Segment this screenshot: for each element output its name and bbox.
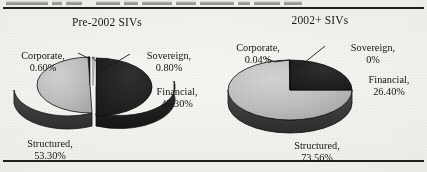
pie-label-corporate-pre2002: Corporate, 0.60%: [6, 50, 80, 73]
pie-label-sovereign-value-pre2002: 0.80%: [131, 62, 207, 74]
pie-label-sovereign-post2002: Sovereign, 0%: [335, 42, 411, 65]
pie-label-financial-pre2002: Financial, 45.30%: [140, 86, 214, 109]
pie-label-structured-name-pre2002: Structured,: [4, 138, 96, 150]
pie-label-financial-name-post2002: Financial,: [353, 74, 425, 86]
pie-label-structured-pre2002: Structured, 53.30%: [4, 138, 96, 161]
pie-label-financial-post2002: Financial, 26.40%: [353, 74, 425, 97]
figure-root: Pre-2002 SIVs: [0, 0, 427, 172]
pie-label-corporate-name-pre2002: Corporate,: [6, 50, 80, 62]
chart-panel-pre2002: Pre-2002 SIVs: [0, 10, 214, 158]
pie-label-sovereign-pre2002: Sovereign, 0.80%: [131, 50, 207, 73]
pie-label-financial-value-pre2002: 45.30%: [140, 98, 214, 110]
pie-stage-pre2002: Corporate, 0.60% Sovereign, 0.80% Financ…: [0, 10, 214, 158]
pie-label-corporate-value-post2002: 0.04%: [219, 54, 297, 66]
top-rule: [3, 7, 424, 9]
pie-label-structured-value-post2002: 73.56%: [265, 152, 369, 164]
pie-label-structured-post2002: Structured, 73.56%: [265, 140, 369, 163]
chart-panel-post2002: 2002+ SIVs: [213, 10, 427, 158]
pie-stage-post2002: Corporate, 0.04% Sovereign, 0% Financial…: [213, 10, 427, 158]
clipped-header-text-sliver: [0, 0, 427, 5]
explosion-gap-pre2002: [90, 57, 96, 87]
pie-label-sovereign-value-post2002: 0%: [335, 54, 411, 66]
pie-label-financial-name-pre2002: Financial,: [140, 86, 214, 98]
pie-chart-pre2002: [0, 10, 214, 158]
pie-label-corporate-post2002: Corporate, 0.04%: [219, 42, 297, 65]
pie-label-sovereign-name-post2002: Sovereign,: [335, 42, 411, 54]
pie-label-corporate-name-post2002: Corporate,: [219, 42, 297, 54]
pie-label-financial-value-post2002: 26.40%: [353, 86, 425, 98]
pie-label-sovereign-name-pre2002: Sovereign,: [131, 50, 207, 62]
pie-label-structured-name-post2002: Structured,: [265, 140, 369, 152]
pie-label-structured-value-pre2002: 53.30%: [4, 150, 96, 162]
pie-label-corporate-value-pre2002: 0.60%: [6, 62, 80, 74]
